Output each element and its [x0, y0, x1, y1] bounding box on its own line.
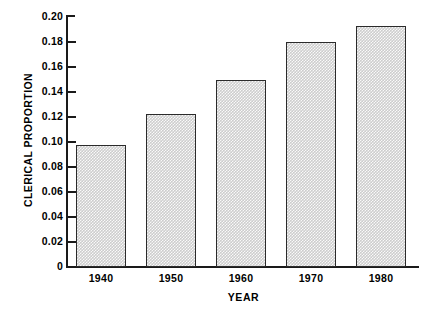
y-axis-tick-label: 0.04	[17, 211, 63, 222]
bar-chart: CLERICAL PROPORTION 0.200.180.160.140.12…	[0, 0, 427, 317]
bar-1950	[146, 114, 196, 267]
y-axis-tick-label: 0.10	[17, 136, 63, 147]
y-axis-tick-label: 0.12	[17, 111, 63, 122]
y-axis-tick-label: 0.06	[17, 186, 63, 197]
x-axis-tick-label-1950: 1950	[136, 272, 206, 284]
x-axis-tick-label-1960: 1960	[206, 272, 276, 284]
bar-1980	[356, 26, 406, 267]
y-axis-tick-label: 0.20	[17, 11, 63, 22]
y-axis-tick-label: 0.08	[17, 161, 63, 172]
x-axis-tick-label-1940: 1940	[66, 272, 136, 284]
y-axis-tick-label: 0.16	[17, 61, 63, 72]
y-axis-tick-label: 0	[17, 261, 63, 272]
plot-area	[66, 17, 416, 267]
y-axis-tick-label: 0.02	[17, 236, 63, 247]
bar-1940	[76, 145, 126, 267]
y-axis-tick-label: 0.18	[17, 36, 63, 47]
x-axis-tick-label-1980: 1980	[346, 272, 416, 284]
bar-1960	[216, 80, 266, 267]
bar-1970	[286, 42, 336, 267]
x-axis-title: YEAR	[60, 291, 427, 303]
y-axis-tick-label: 0.14	[17, 86, 63, 97]
x-axis-tick-label-1970: 1970	[276, 272, 346, 284]
